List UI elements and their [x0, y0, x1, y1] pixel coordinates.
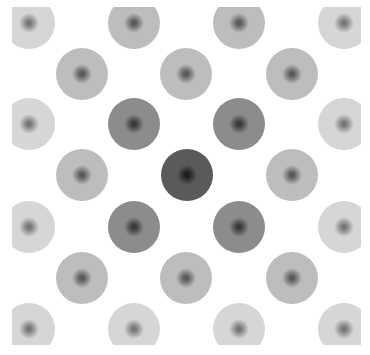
diffraction-spot — [266, 252, 318, 304]
diffraction-spot — [12, 201, 55, 253]
diffraction-spot — [108, 7, 160, 49]
diffraction-spot — [318, 98, 361, 150]
diffraction-spot — [213, 303, 265, 345]
diffraction-spot — [12, 303, 55, 345]
diffraction-spot — [266, 48, 318, 100]
diffraction-spot — [213, 98, 265, 150]
diffraction-spot — [12, 98, 55, 150]
diffraction-spot — [161, 149, 213, 201]
diffraction-spot — [12, 7, 55, 49]
diffraction-spot — [318, 201, 361, 253]
diffraction-spot — [56, 149, 108, 201]
spot-lattice — [12, 7, 361, 345]
diffraction-spot — [213, 7, 265, 49]
diffraction-spot — [266, 149, 318, 201]
caption-cutoff — [60, 346, 320, 355]
diffraction-spot — [108, 303, 160, 345]
diffraction-spot — [160, 252, 212, 304]
diffraction-spot — [318, 7, 361, 49]
diffraction-spot — [213, 201, 265, 253]
diffraction-spot — [56, 48, 108, 100]
diffraction-spot — [108, 201, 160, 253]
diffraction-spot — [56, 252, 108, 304]
diffraction-spot — [108, 98, 160, 150]
diffraction-spot — [318, 303, 361, 345]
diffraction-spot — [160, 48, 212, 100]
